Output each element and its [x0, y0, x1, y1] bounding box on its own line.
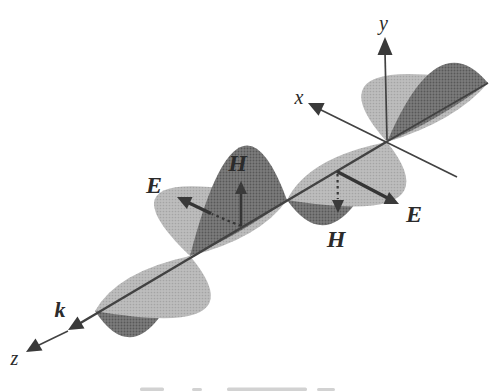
x-axis-label: x — [294, 86, 304, 108]
figure-canvas: y x z k E H E H — [0, 0, 500, 391]
z-axis-label: z — [10, 347, 19, 369]
wave-vector-label: k — [55, 297, 66, 322]
y-axis-arrowhead-icon — [378, 37, 393, 55]
x-axis-arrowhead-icon — [308, 103, 325, 116]
caption-remnant — [140, 388, 335, 391]
z-axis-tail-segment — [38, 331, 68, 346]
h-field-label-top: H — [227, 150, 248, 176]
e-field-label-left: E — [145, 172, 162, 198]
e-field-lobe-4 — [95, 256, 211, 318]
e-field-label-right: E — [405, 201, 422, 227]
figure-page: y x z k E H E H — [0, 0, 500, 391]
y-axis-label: y — [377, 12, 388, 35]
h-field-label-bottom: H — [326, 226, 347, 252]
